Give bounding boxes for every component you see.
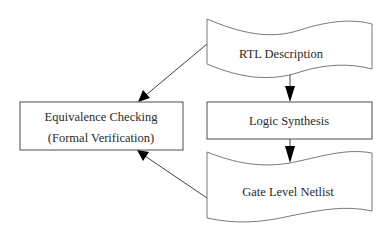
edge-rtl-to-equivalence xyxy=(138,44,207,102)
arrowhead-icon xyxy=(285,86,295,102)
node-rtl-description[interactable]: RTL Description xyxy=(207,19,372,78)
edge-netlist-to-equivalence xyxy=(137,150,207,198)
edge-rtl-to-synthesis xyxy=(285,74,295,102)
node-label-line1: Equivalence Checking xyxy=(45,110,159,124)
node-label: Logic Synthesis xyxy=(249,114,329,128)
edge-synthesis-to-netlist xyxy=(285,139,295,163)
node-label-line2: (Formal Verification) xyxy=(48,131,154,145)
node-label: Gate Level Netlist xyxy=(242,185,334,199)
node-gate-level-netlist[interactable]: Gate Level Netlist xyxy=(207,152,372,222)
arrowhead-icon xyxy=(138,90,150,102)
flow-diagram: RTL Description Logic Synthesis Gate Lev… xyxy=(0,0,390,237)
node-logic-synthesis[interactable]: Logic Synthesis xyxy=(207,102,372,139)
arrowhead-icon xyxy=(137,150,149,161)
node-equivalence-checking[interactable]: Equivalence Checking (Formal Verificatio… xyxy=(20,102,183,150)
node-label: RTL Description xyxy=(239,47,324,61)
arrowhead-icon xyxy=(285,146,295,163)
